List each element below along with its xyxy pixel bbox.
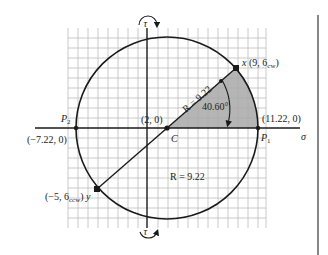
tau-bottom-label: τ (144, 226, 148, 237)
center-coords: (2, 0) (141, 114, 163, 126)
tau-top-rotation-icon (139, 16, 157, 25)
mohr-circle-diagram: τ τ σ (2, 0) C x (9, 6cw) (−5, 6ccw) y (… (0, 0, 328, 255)
point-y-label: (−5, 6ccw) y (45, 191, 91, 204)
point-mid-r (219, 79, 223, 83)
angle-label: 40.60° (202, 101, 229, 112)
radius-label-lower: R = 9.22 (170, 171, 205, 182)
p2-coords: (−7.22, 0) (27, 134, 67, 146)
sigma-label: σ (301, 131, 307, 142)
p1-coords: (11.22, 0) (262, 113, 301, 125)
center-label: C (171, 133, 178, 144)
point-p1 (256, 126, 260, 130)
p1-label: P1 (260, 132, 271, 145)
tau-top-label: τ (144, 18, 148, 29)
point-x (233, 65, 239, 71)
p2-label: P2 (60, 113, 71, 126)
point-p2 (74, 126, 78, 130)
point-c (164, 125, 169, 130)
point-y (94, 186, 100, 192)
